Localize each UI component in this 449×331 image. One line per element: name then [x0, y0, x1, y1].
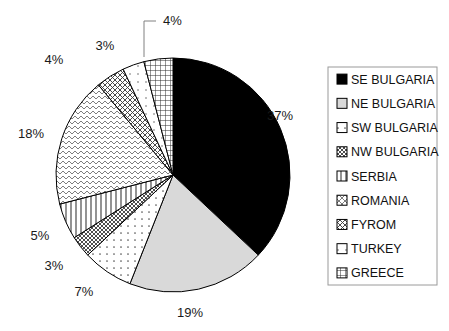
pie-chart-figure: 37% 19% 7% 3% 5% 18% 4% 3% 4% SE BULGARI…	[0, 0, 449, 331]
legend-item-label: GREECE	[351, 266, 404, 280]
pie-label-sw-bulgaria: 7%	[75, 284, 94, 299]
legend-item-label: FYROM	[351, 218, 396, 232]
leader-lines	[144, 21, 156, 57]
legend-item-se-bulgaria[interactable]: SE BULGARIA	[337, 73, 435, 87]
legend-item-turkey[interactable]: TURKEY	[337, 242, 402, 256]
legend-item-serbia[interactable]: SERBIA	[337, 170, 398, 184]
legend-item-nw-bulgaria[interactable]: NW BULGARIA	[337, 145, 439, 159]
legend-swatch-grid-crosshatch-icon	[337, 268, 347, 278]
pie-label-romania: 18%	[18, 126, 44, 141]
legend-swatch-diagonal-crosshatch-icon	[337, 219, 347, 229]
legend-item-label: SE BULGARIA	[351, 73, 435, 87]
leader-line-greece	[144, 21, 156, 57]
pie-label-greece: 4%	[163, 13, 182, 28]
legend: SE BULGARIANE BULGARIASW BULGARIANW BULG…	[328, 67, 439, 285]
legend-swatch-diagonal-crosshatch-light-icon	[337, 195, 347, 205]
legend-swatch-sparse-dots-icon	[337, 123, 347, 133]
legend-item-label: NE BULGARIA	[351, 97, 436, 111]
legend-swatch-vertical-lines-icon	[337, 171, 347, 181]
pie-label-fyrom: 4%	[45, 52, 64, 67]
pie-chart-svg: 37% 19% 7% 3% 5% 18% 4% 3% 4% SE BULGARI…	[0, 0, 449, 331]
legend-swatch-solid-black-icon	[337, 74, 347, 84]
legend-item-label: SW BULGARIA	[351, 121, 438, 135]
pie-label-nw-bulgaria: 3%	[45, 258, 64, 273]
legend-item-label: SERBIA	[351, 170, 398, 184]
legend-item-greece[interactable]: GREECE	[337, 266, 404, 280]
legend-item-sw-bulgaria[interactable]: SW BULGARIA	[337, 121, 438, 135]
pie-label-turkey: 3%	[96, 38, 115, 53]
pie-slices	[56, 58, 290, 292]
pie-label-ne-bulgaria: 19%	[177, 305, 203, 320]
legend-item-label: TURKEY	[351, 242, 402, 256]
legend-item-label: NW BULGARIA	[351, 145, 439, 159]
legend-item-fyrom[interactable]: FYROM	[337, 218, 396, 232]
legend-swatch-solid-light-gray-icon	[337, 98, 347, 108]
pie-label-serbia: 5%	[31, 228, 50, 243]
legend-item-label: ROMANIA	[351, 194, 410, 208]
legend-swatch-sparse-dots-light-icon	[337, 244, 347, 254]
legend-item-ne-bulgaria[interactable]: NE BULGARIA	[337, 97, 436, 111]
legend-swatch-dense-diagonal-crosshatch-icon	[337, 147, 347, 157]
pie-label-se-bulgaria: 37%	[267, 108, 293, 123]
